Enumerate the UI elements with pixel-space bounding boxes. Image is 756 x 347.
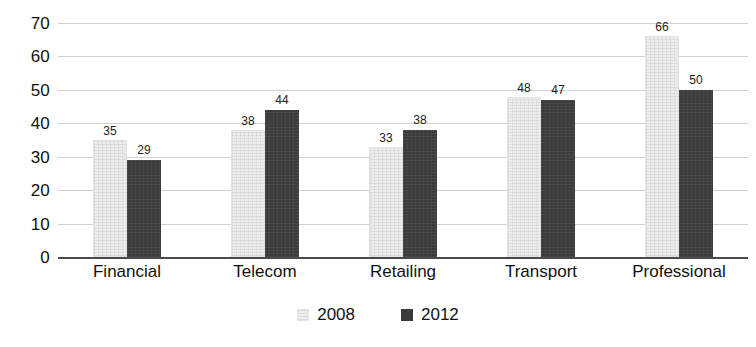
- bar-value-label: 66: [655, 21, 668, 33]
- chart-legend: 20082012: [0, 306, 756, 323]
- bar-container: 35: [93, 140, 127, 257]
- y-axis-tick-label: 10: [6, 216, 50, 233]
- bar-chart: 706050403020100 35293844333848476650 Fin…: [0, 0, 756, 347]
- legend-item[interactable]: 2012: [401, 306, 459, 323]
- y-axis-tick-label: 60: [6, 48, 50, 65]
- bar-groups: 35293844333848476650: [58, 23, 748, 257]
- y-axis-tick-label: 0: [6, 249, 50, 266]
- bar-container: 47: [541, 100, 575, 257]
- bar[interactable]: 44: [265, 110, 299, 257]
- legend-label: 2008: [317, 306, 355, 323]
- bar[interactable]: 48: [507, 97, 541, 257]
- legend-swatch-icon: [401, 309, 413, 321]
- x-axis-baseline: [58, 257, 748, 259]
- bar[interactable]: 66: [645, 36, 679, 257]
- bar[interactable]: 33: [369, 147, 403, 257]
- bar[interactable]: 50: [679, 90, 713, 257]
- y-axis-tick-label: 30: [6, 149, 50, 166]
- bar-container: 29: [127, 160, 161, 257]
- bar-group: 3529: [58, 23, 196, 257]
- bar-container: 66: [645, 36, 679, 257]
- bar-value-label: 35: [103, 125, 116, 137]
- x-axis-category-label: Retailing: [334, 262, 472, 282]
- bar[interactable]: 38: [231, 130, 265, 257]
- bar-value-label: 38: [241, 115, 254, 127]
- bar-value-label: 50: [689, 74, 702, 86]
- bar[interactable]: 47: [541, 100, 575, 257]
- x-axis-category-label: Transport: [472, 262, 610, 282]
- bar[interactable]: 38: [403, 130, 437, 257]
- y-axis-tick-label: 20: [6, 182, 50, 199]
- bar-container: 33: [369, 147, 403, 257]
- bar-group: 4847: [472, 23, 610, 257]
- bar-value-label: 38: [413, 114, 426, 126]
- bar-container: 48: [507, 97, 541, 257]
- bar-group: 6650: [610, 23, 748, 257]
- x-axis-category-label: Telecom: [196, 262, 334, 282]
- y-axis-tick-labels: 706050403020100: [0, 23, 50, 257]
- bar-group: 3338: [334, 23, 472, 257]
- bar-container: 38: [403, 130, 437, 257]
- bar-value-label: 47: [551, 84, 564, 96]
- y-axis-tick-label: 50: [6, 82, 50, 99]
- bar-container: 44: [265, 110, 299, 257]
- x-axis-category-labels: FinancialTelecomRetailingTransportProfes…: [58, 262, 748, 282]
- bar-value-label: 29: [137, 144, 150, 156]
- bar-value-label: 48: [517, 82, 530, 94]
- legend-item[interactable]: 2008: [297, 306, 355, 323]
- legend-label: 2012: [421, 306, 459, 323]
- bar-value-label: 44: [275, 94, 288, 106]
- x-axis-category-label: Professional: [610, 262, 748, 282]
- x-axis-category-label: Financial: [58, 262, 196, 282]
- bar-container: 38: [231, 130, 265, 257]
- y-axis-tick-label: 70: [6, 15, 50, 32]
- bar-container: 50: [679, 90, 713, 257]
- y-axis-tick-label: 40: [6, 115, 50, 132]
- bar-group: 3844: [196, 23, 334, 257]
- bar[interactable]: 29: [127, 160, 161, 257]
- bar-value-label: 33: [379, 132, 392, 144]
- bar[interactable]: 35: [93, 140, 127, 257]
- legend-swatch-icon: [297, 309, 309, 321]
